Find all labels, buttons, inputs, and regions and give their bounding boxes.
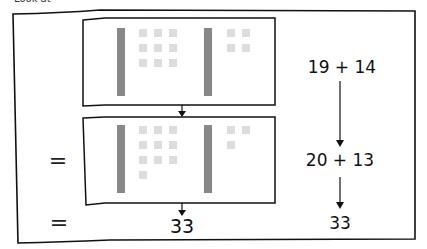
equals-sign: = xyxy=(49,148,67,173)
ten-rod xyxy=(204,28,212,96)
equals-sign: = xyxy=(50,210,68,235)
ten-rod xyxy=(117,28,125,96)
outer-frame xyxy=(13,10,415,243)
down-arrow-icon xyxy=(336,177,344,209)
bottom-right-group-13 xyxy=(204,125,250,193)
top-right-group-14 xyxy=(204,28,250,96)
down-arrow-icon xyxy=(178,105,186,117)
ten-rod xyxy=(117,125,125,193)
expression-step-1: 19 + 14 xyxy=(308,57,376,77)
bottom-left-group-20 xyxy=(117,125,177,193)
down-arrow-icon xyxy=(336,81,344,147)
top-left-group-19 xyxy=(117,28,177,96)
expression-result: 33 xyxy=(329,213,351,233)
expression-step-2: 20 + 13 xyxy=(306,150,374,170)
ten-rod xyxy=(204,125,212,193)
blocks-result: 33 xyxy=(170,215,194,237)
